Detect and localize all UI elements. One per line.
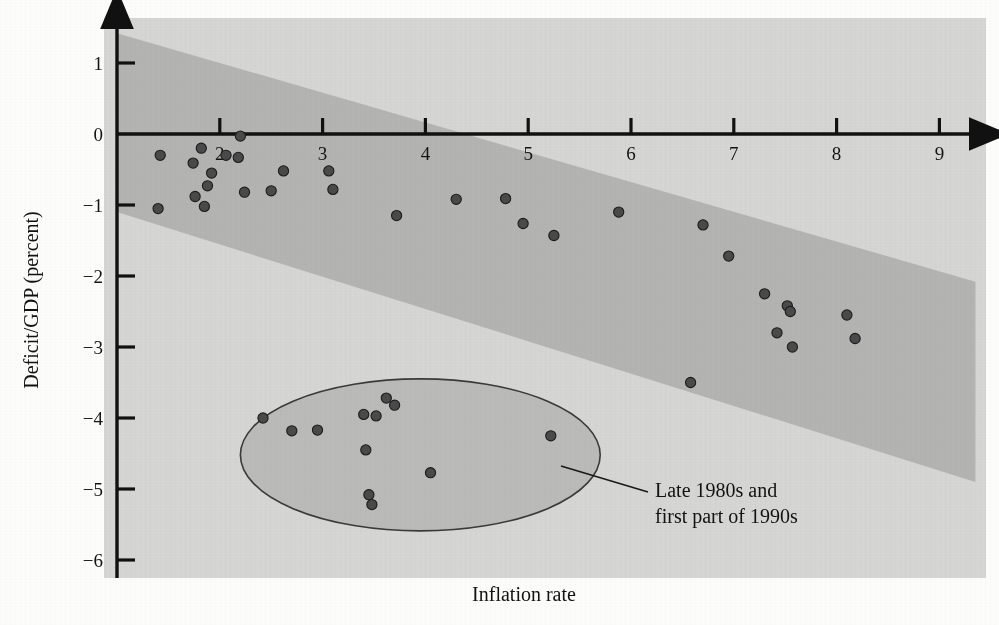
y-tick-label-−5: −5 (83, 479, 103, 500)
data-point-16 (392, 211, 402, 221)
figure-container: 23456789 10−1−2−3−4−5−6 Late 1980s and f… (0, 0, 999, 625)
highlight-point-11 (546, 431, 556, 441)
data-point-24 (760, 289, 770, 299)
highlight-point-8 (364, 490, 374, 500)
data-point-13 (278, 166, 288, 176)
y-tick-label-−6: −6 (83, 550, 103, 571)
data-point-17 (451, 194, 461, 204)
data-point-3 (207, 168, 217, 178)
data-point-4 (202, 181, 212, 191)
data-point-28 (787, 342, 797, 352)
data-point-2 (188, 158, 198, 168)
data-point-0 (155, 150, 165, 160)
y-tick-label-−3: −3 (83, 337, 103, 358)
highlight-point-6 (390, 400, 400, 410)
y-axis-tick-labels: 10−1−2−3−4−5−6 (83, 53, 104, 571)
y-tick-label-0: 0 (94, 124, 104, 145)
annotation-line-1: Late 1980s and (655, 479, 777, 501)
data-point-6 (221, 150, 231, 160)
x-tick-label-5: 5 (523, 143, 533, 164)
x-tick-label-6: 6 (626, 143, 636, 164)
data-point-10 (199, 201, 209, 211)
annotation-line-2: first part of 1990s (655, 505, 798, 528)
data-point-29 (842, 310, 852, 320)
highlight-point-1 (287, 426, 297, 436)
y-axis-title: Deficit/GDP (percent) (20, 211, 43, 389)
data-point-15 (328, 184, 338, 194)
data-point-22 (698, 220, 708, 230)
data-point-21 (614, 207, 624, 217)
y-tick-label-−2: −2 (83, 266, 103, 287)
data-point-14 (324, 166, 334, 176)
data-point-27 (772, 328, 782, 338)
highlight-ellipse (240, 379, 600, 531)
data-point-20 (549, 230, 559, 240)
data-point-7 (235, 131, 245, 141)
highlight-point-9 (367, 500, 377, 510)
highlight-point-2 (312, 425, 322, 435)
x-axis-title: Inflation rate (472, 583, 576, 605)
data-point-31 (686, 377, 696, 387)
highlight-point-4 (371, 411, 381, 421)
data-point-9 (153, 204, 163, 214)
x-tick-label-7: 7 (729, 143, 739, 164)
data-point-1 (196, 143, 206, 153)
y-tick-label-−4: −4 (83, 408, 104, 429)
data-point-30 (850, 333, 860, 343)
data-point-5 (190, 191, 200, 201)
x-tick-label-3: 3 (318, 143, 328, 164)
highlight-point-0 (258, 413, 268, 423)
y-tick-label-−1: −1 (83, 195, 103, 216)
x-tick-label-4: 4 (421, 143, 431, 164)
scatter-plot: 23456789 10−1−2−3−4−5−6 Late 1980s and f… (0, 0, 999, 625)
data-point-23 (724, 251, 734, 261)
data-point-11 (239, 187, 249, 197)
data-point-8 (233, 152, 243, 162)
x-tick-label-8: 8 (832, 143, 842, 164)
data-point-19 (518, 218, 528, 228)
data-point-12 (266, 186, 276, 196)
data-point-26 (785, 306, 795, 316)
y-tick-label-1: 1 (94, 53, 104, 74)
highlight-point-7 (361, 445, 371, 455)
highlight-point-3 (359, 409, 369, 419)
x-tick-label-9: 9 (935, 143, 945, 164)
data-point-18 (501, 194, 511, 204)
highlight-point-5 (381, 393, 391, 403)
highlight-point-10 (425, 468, 435, 478)
